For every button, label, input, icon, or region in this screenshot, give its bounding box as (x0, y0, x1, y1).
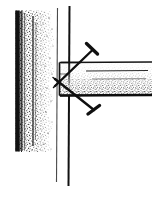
upper-nail-head (87, 44, 98, 55)
wall-group (15, 10, 57, 152)
board-inner-line (86, 71, 148, 72)
board-group (59, 62, 152, 96)
stud-line-light (57, 8, 58, 182)
toenail-diagram (0, 0, 152, 198)
figure-container: Line drawing of two nails angled in oppo… (0, 0, 152, 198)
